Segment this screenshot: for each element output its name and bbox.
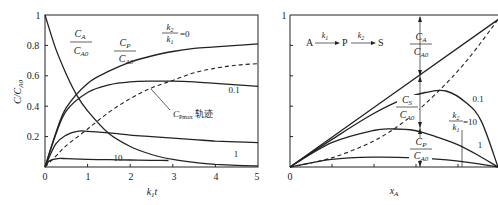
curve-cpmax-locus bbox=[45, 64, 258, 167]
left-xtick-2: 2 bbox=[129, 171, 134, 182]
svg-text:P: P bbox=[342, 37, 348, 48]
left-label-10: 10 bbox=[114, 153, 124, 163]
right-x-axis-label: xA bbox=[389, 185, 399, 198]
svg-text:CA: CA bbox=[416, 31, 428, 44]
svg-text:CP: CP bbox=[120, 37, 132, 50]
right-curves bbox=[290, 20, 498, 167]
left-xtick-5: 5 bbox=[255, 171, 260, 182]
svg-text:CA: CA bbox=[75, 28, 87, 41]
right-label-cp: CP CA0 bbox=[409, 136, 432, 163]
svg-text:C/CA0: C/CA0 bbox=[12, 80, 25, 104]
right-label-1: 1 bbox=[478, 140, 483, 150]
right-label-cs: CS CA0 bbox=[396, 94, 419, 122]
curve-xa-line-k2-k1-0- bbox=[290, 20, 498, 167]
svg-text:=10: =10 bbox=[463, 117, 478, 127]
left-locus-leader bbox=[151, 89, 170, 110]
right-label-ca: CA CA0 bbox=[410, 31, 432, 59]
left-xtick-0: 0 bbox=[43, 171, 48, 182]
svg-text:k1: k1 bbox=[322, 31, 329, 41]
right-label-ratio-10: k2 k1 =10 bbox=[449, 110, 478, 133]
left-xtick-3: 3 bbox=[172, 171, 177, 182]
svg-text:A: A bbox=[306, 37, 314, 48]
left-ytick-0.8: 0.8 bbox=[27, 40, 40, 51]
svg-text:k2: k2 bbox=[358, 31, 365, 41]
right-xtick-0: 0 bbox=[288, 171, 293, 182]
svg-text:CA0: CA0 bbox=[119, 53, 134, 66]
svg-text:=0: =0 bbox=[180, 29, 190, 39]
left-label-locus: CPmax轨迹 bbox=[173, 108, 213, 120]
left-panel: 1 0.8 0.6 0.4 0.2 0 1 2 3 4 5 C/CA0 k1t … bbox=[12, 10, 260, 199]
left-ytick-1: 1 bbox=[36, 10, 41, 21]
left-x-axis-label: k1t bbox=[147, 186, 158, 199]
left-label-0.1: 0.1 bbox=[228, 85, 239, 95]
svg-text:CA0: CA0 bbox=[414, 46, 429, 59]
figure: 1 0.8 0.6 0.4 0.2 0 1 2 3 4 5 C/CA0 k1t … bbox=[0, 0, 498, 205]
left-ytick-0.4: 0.4 bbox=[27, 101, 40, 112]
curve-cp-ca0-k2-k1-0 bbox=[45, 44, 258, 167]
left-label-cp: CP CA0 bbox=[114, 37, 136, 66]
curve-cp-ca0-k2-k1-10 bbox=[45, 158, 169, 167]
left-label-ratio-0: k2 k1 =0 bbox=[162, 22, 190, 45]
curve-cp-ca0-k2-k1-1 bbox=[45, 131, 258, 167]
curve-cp-ca0-k2-k1-10 bbox=[290, 157, 498, 167]
svg-text:k1: k1 bbox=[167, 34, 174, 45]
right-ytick-1: 1 bbox=[282, 10, 287, 21]
svg-text:k2: k2 bbox=[167, 22, 174, 33]
svg-text:k1: k1 bbox=[453, 122, 460, 133]
right-label-0.1: 0.1 bbox=[472, 94, 483, 104]
right-panel: 1 0 xA A k1 P k2 S bbox=[282, 10, 498, 198]
left-ytick-0.6: 0.6 bbox=[27, 70, 40, 81]
left-xtick-1: 1 bbox=[86, 171, 91, 182]
left-label-ca: CA CA0 bbox=[70, 28, 92, 58]
reaction-scheme: A k1 P k2 S bbox=[306, 31, 384, 48]
left-y-axis-label: C/CA0 bbox=[12, 80, 25, 104]
left-label-1: 1 bbox=[234, 149, 239, 159]
svg-text:S: S bbox=[378, 37, 384, 48]
svg-text:k2: k2 bbox=[453, 110, 460, 121]
svg-text:CA0: CA0 bbox=[74, 45, 89, 58]
left-ytick-0.2: 0.2 bbox=[27, 131, 40, 142]
left-xtick-4: 4 bbox=[214, 171, 219, 182]
